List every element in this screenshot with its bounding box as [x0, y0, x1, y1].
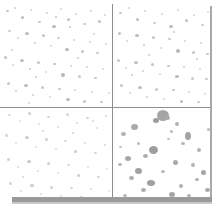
particle-mark: [179, 184, 183, 188]
particle-mark: [50, 186, 53, 189]
particle-mark: [105, 43, 107, 45]
particle-mark: [201, 170, 206, 175]
particle-mark: [155, 88, 158, 91]
particle-mark: [141, 188, 146, 192]
particle-mark: [96, 127, 98, 129]
particle-mark: [131, 74, 133, 76]
particle-mark: [84, 142, 86, 144]
particle-mark: [125, 156, 131, 161]
particle-mark: [74, 89, 76, 91]
particle-mark: [53, 63, 56, 65]
particle-mark: [165, 116, 170, 120]
particle-mark: [161, 170, 165, 173]
particle-mark: [167, 65, 170, 67]
particle-mark: [28, 102, 30, 104]
particle-mark: [175, 122, 179, 126]
particle-mark: [105, 115, 107, 117]
particle-mark: [98, 20, 101, 23]
particle-mark: [176, 49, 180, 53]
particle-mark: [125, 67, 127, 69]
particle-mark: [77, 174, 80, 177]
particle-mark: [175, 75, 179, 78]
particle-mark: [100, 101, 103, 103]
particle-mark: [20, 190, 22, 192]
particle-mark: [147, 180, 155, 186]
particle-mark: [86, 117, 89, 119]
particle-mark: [25, 32, 29, 35]
frame-bottom-shadow: [12, 202, 212, 204]
particle-mark: [180, 100, 183, 103]
plot-area: [0, 4, 212, 202]
particle-mark: [4, 56, 7, 59]
particle-mark: [52, 25, 56, 28]
panel-bottom-right: [113, 108, 212, 202]
particle-mark: [161, 13, 163, 15]
particle-mark: [134, 61, 138, 64]
particle-mark: [81, 50, 84, 53]
particle-mark: [120, 84, 123, 87]
particle-mark: [106, 168, 108, 170]
particle-mark: [196, 58, 198, 60]
particle-mark: [128, 7, 130, 9]
particle-mark: [148, 54, 150, 56]
particle-mark: [173, 160, 178, 165]
particle-mark: [14, 7, 16, 9]
particle-mark: [197, 101, 200, 103]
particle-mark: [78, 75, 81, 78]
particle-mark: [28, 112, 31, 115]
particle-mark: [25, 136, 29, 139]
particle-mark: [102, 68, 104, 70]
particle-mark: [35, 76, 37, 78]
frame-right-edge: [210, 6, 212, 200]
particle-mark: [94, 152, 97, 154]
particle-mark: [32, 94, 34, 96]
particle-mark: [129, 176, 134, 180]
particle-mark: [142, 70, 144, 72]
particle-mark: [143, 154, 148, 158]
particle-mark: [17, 166, 19, 168]
particle-mark: [22, 176, 24, 178]
particle-mark: [97, 176, 100, 178]
particle-mark: [201, 24, 204, 26]
particle-mark: [15, 90, 17, 92]
particle-mark: [185, 19, 188, 22]
particle-mark: [86, 66, 88, 68]
particle-mark: [185, 132, 191, 140]
particle-mark: [183, 66, 185, 68]
horizontal-divider: [0, 107, 212, 108]
particle-mark: [27, 160, 31, 163]
particle-mark: [17, 37, 19, 39]
particle-mark: [35, 146, 37, 148]
particle-mark: [119, 12, 122, 14]
particle-mark: [73, 39, 75, 41]
particle-mark: [55, 16, 57, 18]
particle-mark: [75, 13, 77, 15]
particle-mark: [153, 22, 156, 24]
particle-mark: [129, 92, 131, 94]
particle-mark: [45, 71, 47, 73]
particle-mark: [40, 193, 42, 195]
particle-mark: [131, 124, 138, 130]
particle-mark: [173, 31, 175, 33]
particle-mark: [90, 188, 92, 190]
particle-mark: [38, 21, 41, 23]
particle-mark: [20, 59, 24, 62]
particle-mark: [8, 30, 11, 32]
particle-mark: [163, 98, 165, 100]
particle-mark: [104, 144, 106, 146]
particle-mark: [12, 64, 14, 66]
particle-mark: [172, 89, 175, 91]
particle-mark: [24, 84, 28, 87]
particle-mark: [66, 98, 70, 101]
particle-mark: [30, 184, 34, 187]
particle-mark: [41, 86, 44, 89]
particle-mark: [93, 33, 95, 35]
particle-mark: [45, 138, 48, 141]
particle-mark: [149, 146, 158, 154]
particle-mark: [74, 150, 77, 153]
particle-mark: [77, 57, 79, 59]
particle-mark: [152, 36, 155, 39]
particle-mark: [177, 9, 179, 11]
particle-mark: [204, 93, 206, 95]
particle-mark: [76, 122, 78, 124]
